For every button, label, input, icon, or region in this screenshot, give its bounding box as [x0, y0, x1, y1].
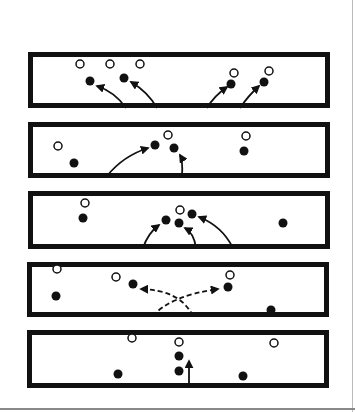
filled-player-icon: [279, 219, 288, 228]
filled-player-icon: [175, 367, 184, 376]
open-player-icon: [265, 67, 273, 75]
filled-player-icon: [224, 283, 233, 292]
page-edge-bottom: [0, 408, 355, 410]
open-player-icon: [175, 338, 183, 346]
filled-player-icon: [240, 147, 249, 156]
panel-frame: [31, 55, 328, 106]
open-player-icon: [128, 334, 136, 342]
filled-player-icon: [70, 159, 79, 168]
filled-player-icon: [129, 280, 138, 289]
open-player-icon: [270, 339, 278, 347]
open-player-icon: [242, 132, 250, 140]
filled-player-icon: [162, 216, 171, 225]
page-edge-right: [352, 0, 353, 412]
filled-player-icon: [260, 78, 269, 87]
panel-5: [30, 333, 327, 388]
open-player-icon: [230, 69, 238, 77]
panel-frame: [30, 265, 327, 315]
open-player-icon: [53, 265, 61, 273]
filled-player-icon: [52, 292, 61, 301]
panel-1: [31, 55, 328, 109]
filled-player-icon: [120, 74, 129, 83]
filled-player-icon: [114, 370, 123, 379]
filled-player-icon: [86, 77, 95, 86]
open-player-icon: [106, 60, 114, 68]
open-player-icon: [136, 60, 144, 68]
filled-player-icon: [175, 352, 184, 361]
open-player-icon: [81, 199, 89, 207]
filled-player-icon: [267, 306, 276, 315]
filled-player-icon: [188, 210, 197, 219]
filled-player-icon: [79, 214, 88, 223]
open-player-icon: [164, 131, 172, 139]
open-player-icon: [112, 273, 120, 281]
panel-frame: [31, 125, 328, 176]
play-diagram: [0, 0, 355, 412]
filled-player-icon: [170, 144, 179, 153]
filled-player-icon: [175, 219, 184, 228]
panel-4: [30, 265, 327, 317]
filled-player-icon: [239, 372, 248, 381]
panel-3: [31, 194, 328, 249]
open-player-icon: [76, 60, 84, 68]
filled-player-icon: [227, 80, 236, 89]
open-player-icon: [226, 271, 234, 279]
open-player-icon: [176, 206, 184, 214]
panel-2: [31, 125, 328, 177]
open-player-icon: [54, 142, 62, 150]
filled-player-icon: [151, 141, 160, 150]
